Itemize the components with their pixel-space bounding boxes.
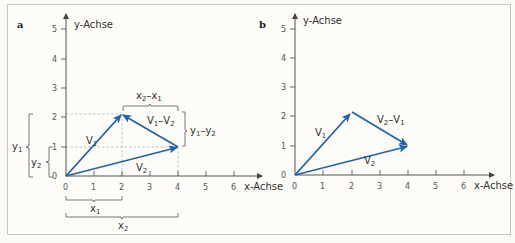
panel-b-y-ticks <box>290 29 295 146</box>
y-tick-3: 3 <box>52 84 57 93</box>
x-tick-3: 3 <box>377 182 382 191</box>
label-v1: V1 <box>86 135 97 148</box>
y-tick-1: 1 <box>52 143 57 152</box>
x-tick-4: 4 <box>175 183 180 192</box>
y-tick-0: 0 <box>281 171 286 180</box>
label-v2-minus-v1: V2–V1 <box>377 114 405 127</box>
label-y1: y1 <box>12 141 22 154</box>
panel-b-y-axis-label: y-Achse <box>303 15 342 26</box>
label-v1-minus-v2: V1–V2 <box>147 115 175 128</box>
vector-v1 <box>295 114 350 175</box>
x-tick-4: 4 <box>405 182 410 191</box>
y-tick-2: 2 <box>52 113 57 122</box>
x-tick-2: 2 <box>119 183 124 192</box>
label-x2: x2 <box>118 220 128 233</box>
y-tick-4: 4 <box>281 54 286 63</box>
label-v1: V1 <box>315 127 326 140</box>
label-y1-minus-y2: y1–y2 <box>190 125 216 138</box>
panel-a-label: a <box>17 19 24 30</box>
label-x2-minus-x1: x2–x1 <box>136 90 162 103</box>
panel-b-label: b <box>259 19 266 30</box>
y-tick-2: 2 <box>281 112 286 121</box>
x-tick-5: 5 <box>203 183 208 192</box>
y-tick-5: 5 <box>281 25 286 34</box>
x-tick-6: 6 <box>461 182 466 191</box>
x-tick-0: 0 <box>292 182 297 191</box>
y-tick-4: 4 <box>52 55 57 64</box>
label-v2: V2 <box>364 155 375 168</box>
x-tick-1: 1 <box>91 183 96 192</box>
y-tick-0: 0 <box>52 172 57 181</box>
x-tick-6: 6 <box>231 183 236 192</box>
x-tick-5: 5 <box>433 182 438 191</box>
vector-v2 <box>295 147 407 176</box>
panel-a-x-axis-label: x-Achse <box>244 181 283 192</box>
panel-a-x-ticks <box>94 171 234 176</box>
label-y2: y2 <box>31 157 41 170</box>
y-tick-1: 1 <box>281 142 286 151</box>
vector-subtraction-figure: a 0 1 2 3 4 5 <box>0 0 515 243</box>
panel-a-y-axis-label: y-Achse <box>74 19 113 30</box>
y-tick-5: 5 <box>52 25 57 34</box>
panel-b-x-axis-label: x-Achse <box>474 180 513 191</box>
x-tick-2: 2 <box>349 182 354 191</box>
vector-v2 <box>66 148 177 177</box>
figure-canvas: a 0 1 2 3 4 5 <box>0 0 515 243</box>
panel-b: b 0 1 2 3 4 5 <box>259 14 513 191</box>
label-v2: V2 <box>136 162 147 175</box>
panel-b-x-ticks <box>323 170 464 175</box>
panel-a: a 0 1 2 3 4 5 <box>12 14 283 233</box>
x-tick-0: 0 <box>63 183 68 192</box>
x-tick-1: 1 <box>320 182 325 191</box>
x-tick-3: 3 <box>147 183 152 192</box>
y-tick-3: 3 <box>281 83 286 92</box>
label-x1: x1 <box>90 203 100 216</box>
panel-a-y-ticks <box>61 29 66 147</box>
